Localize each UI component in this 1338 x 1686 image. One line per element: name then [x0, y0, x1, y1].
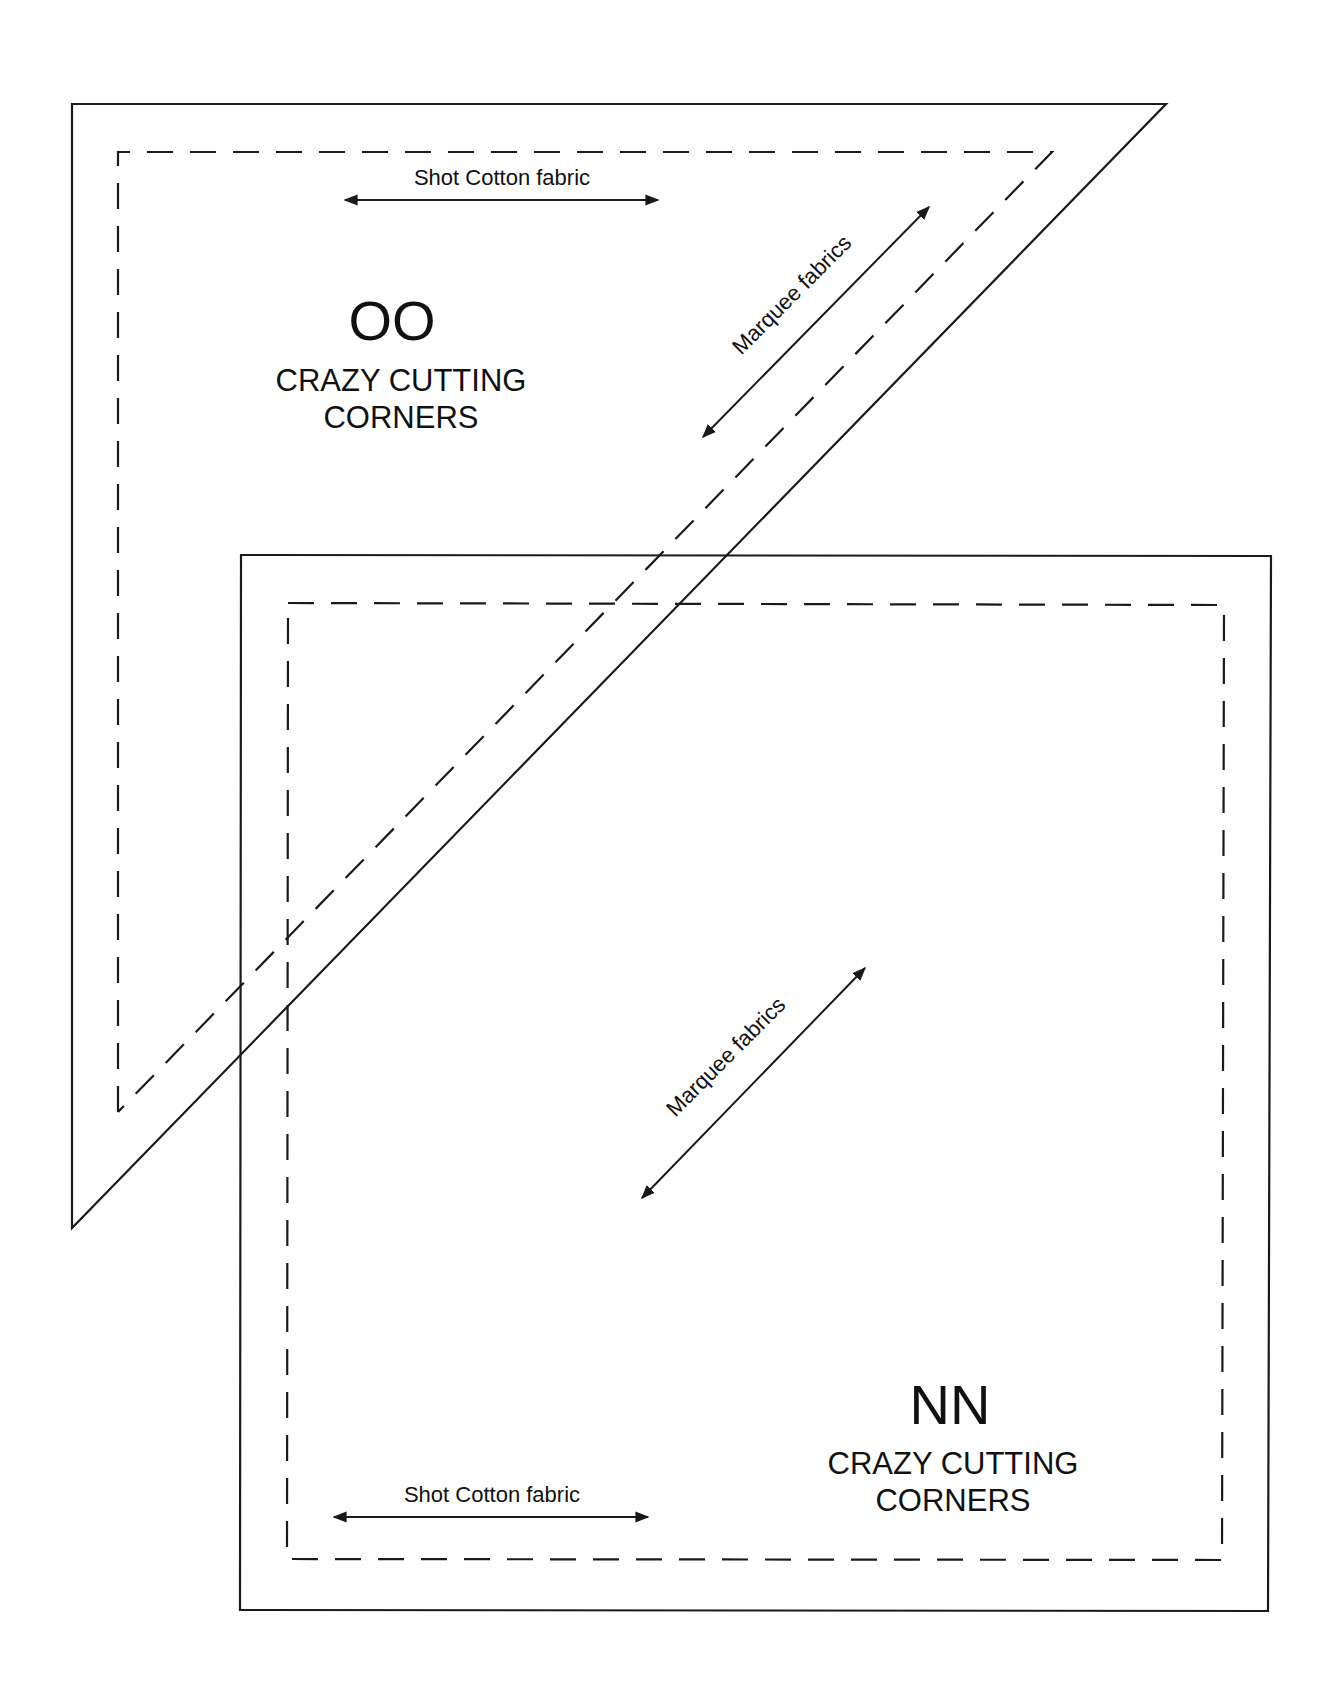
square-horizontal-grain-label: Shot Cotton fabric — [404, 1482, 580, 1507]
square-diagonal-grain-arrow — [642, 968, 865, 1198]
square-piece-code: NN — [910, 1373, 991, 1436]
square-diagonal-grain-label: Marquee fabrics — [661, 992, 790, 1121]
triangle-horizontal-grain-label: Shot Cotton fabric — [414, 165, 590, 190]
piece-oo-triangle: Shot Cotton fabric Marquee fabrics OO CR… — [72, 104, 1166, 1228]
triangle-diagonal-grain-label: Marquee fabrics — [727, 230, 856, 359]
triangle-seam-line — [118, 152, 1052, 1112]
square-piece-title-line1: CRAZY CUTTING — [828, 1446, 1079, 1481]
square-cutting-line — [240, 555, 1271, 1611]
square-piece-title-line2: CORNERS — [875, 1483, 1030, 1518]
triangle-piece-title-line2: CORNERS — [323, 400, 478, 435]
triangle-piece-title-line1: CRAZY CUTTING — [276, 363, 527, 398]
triangle-piece-code: OO — [348, 289, 435, 352]
template-diagram: Shot Cotton fabric Marquee fabrics OO CR… — [0, 0, 1338, 1686]
template-sheet: Shot Cotton fabric Marquee fabrics OO CR… — [0, 0, 1338, 1686]
triangle-cutting-line — [72, 104, 1166, 1228]
triangle-diagonal-grain-arrow — [703, 207, 929, 437]
piece-nn-square: Marquee fabrics Shot Cotton fabric NN CR… — [240, 555, 1271, 1611]
